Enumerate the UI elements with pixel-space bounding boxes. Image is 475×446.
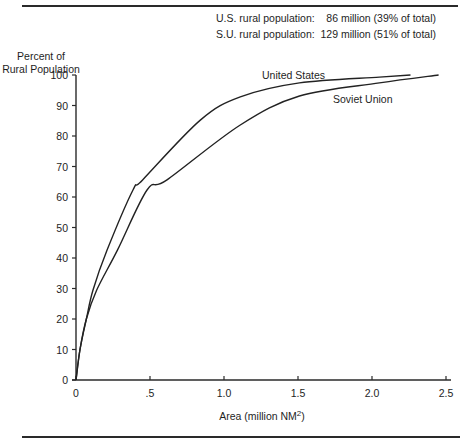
y-tick-label: 40 [56,252,68,264]
x-tick-label: 1.0 [217,387,232,399]
x-tick-label: 0 [73,387,79,399]
su-curve-label: Soviet Union [333,93,393,105]
chart-canvas: 01020304050607080901000.51.01.52.02.5 Un… [0,0,475,446]
y-tick-label: 0 [62,374,68,386]
y-tick-label: 50 [56,222,68,234]
y-tick-label: 70 [56,161,68,173]
y-tick-label: 20 [56,313,68,325]
x-tick-label: 2.0 [365,387,380,399]
curves [76,75,439,380]
us-curve-label: United States [262,69,325,81]
y-tick-label: 10 [56,344,68,356]
y-tick-label: 60 [56,191,68,203]
x-tick-label: 2.5 [439,387,454,399]
united-states-curve [76,75,410,380]
x-tick-label: .5 [146,387,155,399]
y-tick-label: 80 [56,130,68,142]
x-axis-title: Area (million NM2) [219,409,305,422]
y-tick-label: 30 [56,283,68,295]
x-tick-label: 1.5 [291,387,306,399]
y-tick-label: 90 [56,100,68,112]
y-tick-label: 100 [50,69,68,81]
soviet-union-curve [76,75,439,380]
